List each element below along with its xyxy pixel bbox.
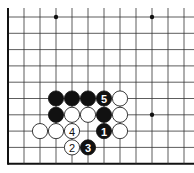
move-number: 4 (69, 126, 75, 138)
white-stone-move-2: 2 (64, 140, 79, 155)
white-stone-icon (64, 107, 79, 122)
move-number: 1 (101, 126, 107, 138)
black-stone-icon (64, 91, 79, 106)
white-stone (112, 124, 127, 139)
star-point-icon (150, 15, 154, 19)
star-point-icon (54, 15, 58, 19)
black-stone (48, 91, 63, 106)
go-board: 54123 (0, 0, 194, 173)
black-stone (80, 91, 95, 106)
white-stone (48, 124, 63, 139)
white-stone-icon (112, 124, 127, 139)
black-stone (64, 91, 79, 106)
black-stone-icon (48, 91, 63, 106)
move-number: 2 (69, 142, 75, 154)
board-grid (8, 8, 194, 165)
black-stone-move-3: 3 (80, 140, 95, 155)
black-stone (48, 107, 63, 122)
white-stone (112, 91, 127, 106)
black-stone-move-5: 5 (96, 91, 111, 106)
black-stone-icon (80, 91, 95, 106)
white-stone-icon (112, 107, 127, 122)
black-stone-move-1: 1 (96, 124, 111, 139)
move-number: 5 (101, 93, 107, 105)
star-point-icon (150, 113, 154, 117)
white-stone-icon (112, 91, 127, 106)
stones: 54123 (32, 91, 127, 155)
white-stone-icon (48, 124, 63, 139)
white-stone (32, 124, 47, 139)
white-stone (64, 107, 79, 122)
black-stone-icon (96, 107, 111, 122)
black-stone (96, 107, 111, 122)
white-stone (112, 107, 127, 122)
black-stone-icon (48, 107, 63, 122)
white-stone-icon (32, 124, 47, 139)
move-number: 3 (85, 142, 91, 154)
white-stone-move-4: 4 (64, 124, 79, 139)
white-stone-icon (80, 107, 95, 122)
white-stone (80, 107, 95, 122)
